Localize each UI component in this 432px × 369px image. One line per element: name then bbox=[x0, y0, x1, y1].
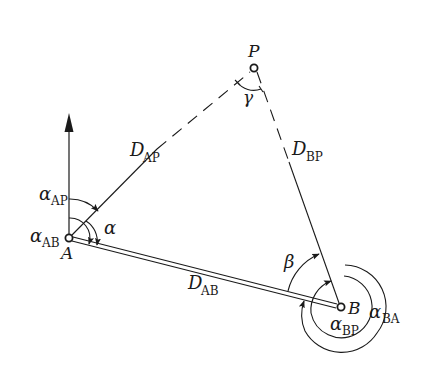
label-d-ap: D AP bbox=[129, 139, 160, 165]
svg-text:AB: AB bbox=[41, 236, 60, 250]
point-b-marker bbox=[337, 303, 344, 310]
svg-text:BP: BP bbox=[342, 324, 359, 338]
svg-text:α: α bbox=[39, 183, 51, 204]
label-beta: β bbox=[283, 251, 294, 272]
line-bp bbox=[257, 72, 339, 303]
north-arrowhead-icon bbox=[65, 113, 74, 132]
point-a-label: A bbox=[59, 243, 73, 263]
svg-text:AP: AP bbox=[142, 151, 160, 165]
svg-text:BA: BA bbox=[382, 312, 400, 326]
svg-text:α: α bbox=[30, 225, 42, 246]
arc-alpha-ap bbox=[69, 199, 98, 211]
survey-diagram: P A B D AP D BP D AB α AP α AB α γ β α B… bbox=[0, 0, 432, 369]
label-alpha-ab: α AB bbox=[30, 225, 60, 250]
label-gamma: γ bbox=[243, 87, 254, 107]
svg-text:D: D bbox=[291, 138, 307, 159]
point-a-marker bbox=[65, 234, 72, 241]
svg-text:α: α bbox=[330, 313, 342, 334]
north-arrow bbox=[65, 113, 74, 234]
svg-text:BP: BP bbox=[306, 150, 323, 164]
line-ap bbox=[72, 72, 250, 235]
label-d-ab: D AB bbox=[187, 272, 219, 298]
svg-text:AP: AP bbox=[50, 194, 68, 208]
point-b-label: B bbox=[347, 298, 361, 318]
svg-text:AB: AB bbox=[200, 284, 219, 298]
label-alpha-ap: α AP bbox=[39, 183, 68, 208]
point-p-marker bbox=[250, 64, 257, 71]
label-alpha: α bbox=[104, 217, 116, 238]
point-p-label: P bbox=[247, 41, 260, 61]
label-d-bp: D BP bbox=[291, 138, 323, 164]
label-alpha-ba: α BA bbox=[369, 301, 400, 326]
svg-text:α: α bbox=[369, 301, 381, 322]
